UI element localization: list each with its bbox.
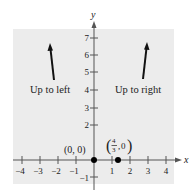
svg-text:0: 0	[121, 141, 126, 151]
svg-text:1: 1	[110, 166, 115, 176]
x-axis-arrow-icon	[175, 158, 182, 163]
svg-text:2: 2	[85, 120, 90, 130]
svg-text:6: 6	[85, 50, 90, 60]
svg-text:−2: −2	[51, 166, 61, 176]
svg-text:4: 4	[112, 137, 116, 145]
svg-text:(: (	[106, 137, 111, 155]
svg-text:−1: −1	[79, 173, 89, 183]
svg-text:,: ,	[118, 141, 120, 151]
graph: x y −4 −3 −2 −1 1 2 3 4 −1 2 3 4	[0, 0, 196, 195]
svg-text:4: 4	[164, 166, 169, 176]
svg-text:3: 3	[112, 146, 116, 154]
point-four-thirds	[115, 157, 121, 163]
svg-text:): )	[127, 137, 132, 155]
y-axis-label: y	[90, 9, 96, 20]
point-origin	[91, 157, 97, 163]
svg-text:2: 2	[128, 166, 133, 176]
svg-text:5: 5	[85, 67, 90, 77]
annotation-up-to-right: Up to right	[115, 84, 161, 95]
svg-text:3: 3	[146, 166, 151, 176]
y-axis-arrow-icon	[92, 21, 97, 28]
annotation-up-to-left: Up to left	[30, 84, 70, 95]
x-axis-label: x	[183, 154, 189, 165]
point-label-origin: (0, 0)	[64, 144, 86, 156]
svg-text:4: 4	[85, 85, 90, 95]
svg-text:3: 3	[85, 103, 90, 113]
svg-text:7: 7	[85, 33, 90, 43]
svg-text:−1: −1	[69, 166, 79, 176]
svg-text:−4: −4	[15, 166, 25, 176]
svg-text:−3: −3	[33, 166, 43, 176]
